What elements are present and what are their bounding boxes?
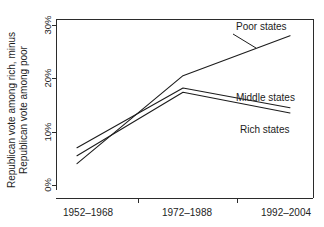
x-tick-label-1: 1952–1968 (63, 207, 113, 218)
poor-states-leader-line (233, 34, 256, 48)
chart-figure: Republican vote among rich, minus Republ… (0, 0, 324, 227)
y-tick-label-30: 30% (42, 15, 53, 35)
y-tick-label-0: 0% (42, 178, 53, 192)
series-label-poor-states: Poor states (236, 21, 287, 32)
series-label-middle-states: Middle states (236, 92, 295, 103)
y-tick-label-10: 10% (42, 122, 53, 142)
x-tick-label-3: 1992–2004 (261, 207, 311, 218)
series-label-rich-states: Rich states (240, 124, 289, 135)
y-tick-label-20: 20% (42, 68, 53, 88)
line-chart-plot: Republican vote among rich, minus Republ… (0, 0, 324, 227)
y-axis-title: Republican vote among rich, minus Republ… (6, 32, 29, 188)
y-axis-title-line2: Republican vote among poor (18, 45, 29, 174)
y-axis-title-line1: Republican vote among rich, minus (6, 32, 17, 188)
x-tick-label-2: 1972–1988 (162, 207, 212, 218)
